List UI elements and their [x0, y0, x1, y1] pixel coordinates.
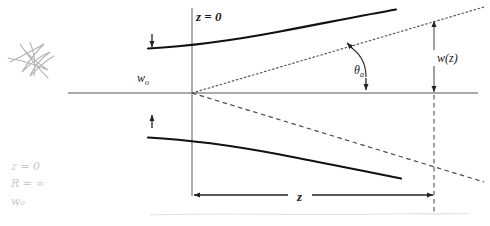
beam-waist-label: wo — [137, 72, 149, 87]
z-zero-label: z = 0 — [196, 10, 221, 23]
divergence-angle-subscript: a — [360, 70, 364, 79]
gaussian-beam-figure — [0, 0, 490, 226]
beam-waist-subscript: o — [145, 78, 149, 87]
lower-beam-envelope — [148, 138, 401, 179]
z-distance-label: z — [297, 190, 302, 203]
star-doodle — [8, 42, 54, 78]
divergence-angle-label: θa — [354, 64, 364, 79]
paper-edge-artifact — [150, 213, 470, 215]
handwritten-note-w0: w₀ — [11, 196, 25, 207]
handwritten-note-r: R = ∞ — [11, 178, 45, 189]
spot-size-label: w(z) — [437, 52, 458, 64]
upper-beam-envelope — [148, 10, 396, 49]
lower-asymptote — [192, 93, 484, 182]
divergence-arrow-to-curve — [347, 43, 353, 49]
handwritten-note-z: z = 0 — [11, 161, 40, 172]
beam-waist-symbol: w — [137, 71, 145, 85]
